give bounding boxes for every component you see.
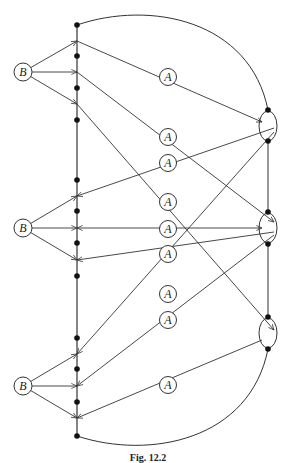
a-node-label: A — [163, 247, 172, 261]
bar-dot — [74, 240, 80, 246]
a-node-1: A — [160, 69, 177, 86]
a-node-label: A — [163, 287, 172, 301]
bar-dot — [74, 208, 80, 214]
b-node-1: B — [14, 63, 32, 81]
network-diagram: AAAAAAAAA BBB — [0, 0, 296, 463]
bar-dot — [74, 433, 80, 439]
bottom-arc — [77, 349, 268, 445]
node-dot — [265, 107, 271, 113]
a-node-group: AAAAAAAAA — [160, 69, 177, 394]
b-edge — [31, 391, 77, 418]
a-node-label: A — [163, 70, 172, 84]
b-node-3: B — [14, 377, 32, 395]
ellipse-node-icon — [259, 111, 277, 141]
bar-dot — [74, 53, 80, 59]
bar-dot — [74, 177, 80, 183]
bar-dot — [74, 366, 80, 372]
a-node-8: A — [160, 312, 177, 329]
b-edge — [31, 196, 77, 223]
bar-dot — [74, 399, 80, 405]
b-edge — [31, 77, 77, 104]
b-node-label: B — [19, 221, 27, 235]
b-node-label: B — [19, 379, 27, 393]
a-node-label: A — [163, 156, 172, 170]
node-dot — [265, 314, 271, 320]
a-node-3: A — [160, 155, 177, 172]
a-node-9: A — [160, 377, 177, 394]
bar-dot — [74, 22, 80, 28]
a-node-7: A — [160, 286, 177, 303]
a-node-label: A — [163, 378, 172, 392]
b-edge-group — [31, 41, 77, 418]
top-arc — [77, 15, 268, 110]
a-node-label: A — [163, 130, 172, 144]
b-edge — [31, 233, 77, 260]
a-node-label: A — [163, 222, 172, 236]
node-dot — [265, 138, 271, 144]
bar-dot — [74, 85, 80, 91]
b-node-label: B — [19, 65, 27, 79]
b-edge — [31, 41, 77, 68]
b-node-group: BBB — [14, 63, 32, 395]
figure-caption: Fig. 12.2 — [0, 452, 296, 463]
a-node-4: A — [160, 194, 177, 211]
node-dot — [265, 209, 271, 215]
a-node-label: A — [163, 313, 172, 327]
b-node-2: B — [14, 219, 32, 237]
b-edge — [31, 354, 77, 381]
a-node-label: A — [163, 195, 172, 209]
a-node-6: A — [160, 246, 177, 263]
bar-dot — [74, 117, 80, 123]
right-node-3 — [259, 314, 277, 352]
node-dot — [265, 241, 271, 247]
right-node-1 — [259, 107, 277, 144]
a-node-2: A — [160, 129, 177, 146]
bar-dot — [74, 335, 80, 341]
node-dot — [265, 346, 271, 352]
a-node-5: A — [160, 221, 177, 238]
bar-dot — [74, 273, 80, 279]
